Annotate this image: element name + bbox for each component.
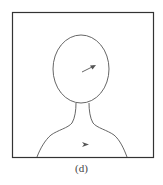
head-outline	[53, 35, 109, 103]
head-and-shoulders-diagram	[0, 0, 163, 165]
left-neck-shoulder-outline	[37, 103, 76, 157]
frame-border	[13, 13, 154, 158]
chest-arrowhead-icon	[82, 142, 89, 147]
right-neck-shoulder-outline	[89, 103, 127, 157]
figure-caption: (d)	[0, 161, 163, 175]
figure-panel-d: (d)	[0, 0, 163, 185]
head-arrow-icon	[82, 65, 96, 72]
